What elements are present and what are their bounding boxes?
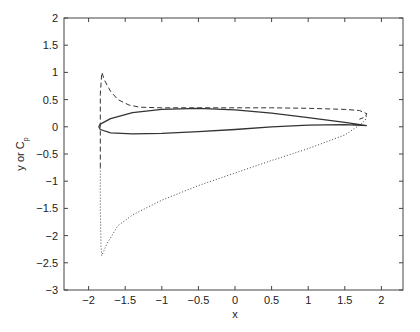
x-axis-ticks: −2−1.5−1−0.500.511.52: [82, 18, 384, 306]
y-tick-label: 0.5: [43, 94, 58, 106]
plot-lines: [99, 72, 367, 255]
x-tick-label: −1: [156, 294, 169, 306]
svg-text:y or Cp: y or Cp: [14, 137, 30, 170]
y-tick-label: 1: [52, 66, 58, 78]
y-tick-label: 0: [52, 121, 58, 133]
y-tick-label: −1.5: [36, 202, 58, 214]
y-tick-label: 2: [52, 12, 58, 24]
y-tick-label: −2.5: [36, 257, 58, 269]
y-axis-ticks: 21.510.50−0.5−1−1.5−2−2.5−3: [36, 12, 403, 296]
series-line-dotted: [100, 115, 367, 256]
y-tick-label: 1.5: [43, 39, 58, 51]
y-axis-label-text: y or C: [14, 141, 26, 170]
x-tick-label: 1.5: [337, 294, 352, 306]
x-tick-label: −2: [82, 294, 95, 306]
x-tick-label: 1: [305, 294, 311, 306]
y-tick-label: −1: [45, 175, 58, 187]
x-tick-label: 0.5: [264, 294, 279, 306]
y-axis-label: y or Cp: [14, 137, 30, 170]
x-axis-label: x: [232, 308, 238, 320]
y-tick-label: −3: [45, 284, 58, 296]
y-tick-label: −0.5: [36, 148, 58, 160]
x-tick-label: −1.5: [114, 294, 136, 306]
y-tick-label: −2: [45, 230, 58, 242]
plot-frame: [64, 18, 403, 290]
y-axis-label-subscript: p: [22, 137, 30, 141]
series-line-solid: [99, 108, 367, 134]
x-tick-label: 0: [232, 294, 238, 306]
x-tick-label: 2: [378, 294, 384, 306]
x-tick-label: −0.5: [188, 294, 210, 306]
chart: −2−1.5−1−0.500.511.52 21.510.50−0.5−1−1.…: [0, 0, 420, 332]
